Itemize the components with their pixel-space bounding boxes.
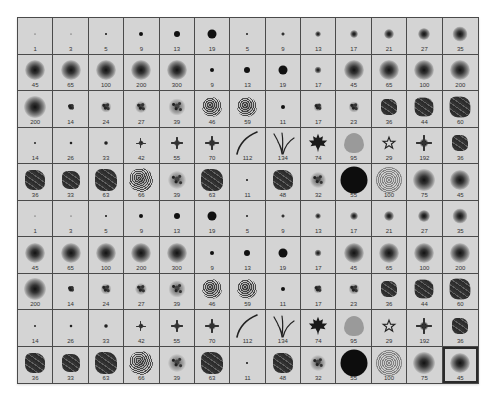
brush-preset-star8[interactable]: 26 <box>53 310 88 347</box>
brush-preset-soft[interactable]: 5 <box>230 18 265 55</box>
brush-preset-soft[interactable]: 21 <box>372 18 407 55</box>
brush-preset-soft[interactable]: 17 <box>336 18 371 55</box>
brush-preset-scatter[interactable]: 23 <box>336 91 371 128</box>
brush-preset-scatter[interactable]: 24 <box>89 91 124 128</box>
brush-preset-textured[interactable]: 36 <box>18 347 53 384</box>
brush-preset-textured[interactable]: 36 <box>372 274 407 311</box>
brush-preset-hard[interactable]: 3 <box>53 201 88 238</box>
brush-preset-soft[interactable]: 17 <box>301 55 336 92</box>
brush-preset-grass-tuft[interactable]: 134 <box>266 128 301 165</box>
brush-preset-textured[interactable]: 63 <box>195 347 230 384</box>
brush-preset-hard[interactable]: 1 <box>18 201 53 238</box>
brush-preset-soft[interactable]: 300 <box>160 237 195 274</box>
brush-preset-star8[interactable]: 33 <box>89 310 124 347</box>
brush-preset-soft[interactable]: 200 <box>124 237 159 274</box>
brush-preset-scatter[interactable]: 32 <box>301 164 336 201</box>
brush-preset-hard[interactable]: 19 <box>266 237 301 274</box>
brush-preset-star-outline[interactable]: 29 <box>372 128 407 165</box>
brush-preset-hard[interactable]: 11 <box>266 91 301 128</box>
brush-preset-textured[interactable]: 63 <box>195 164 230 201</box>
brush-preset-scatter[interactable]: 39 <box>160 91 195 128</box>
brush-preset-soft[interactable]: 200 <box>124 55 159 92</box>
brush-preset-hard[interactable]: 9 <box>124 201 159 238</box>
brush-preset-soft[interactable]: 75 <box>407 347 442 384</box>
brush-preset-soft[interactable]: 45 <box>18 55 53 92</box>
brush-preset-star8[interactable]: 42 <box>124 310 159 347</box>
brush-preset-scatter[interactable]: 32 <box>301 347 336 384</box>
brush-preset-star8[interactable]: 70 <box>195 310 230 347</box>
brush-preset-scatter[interactable]: 23 <box>336 274 371 311</box>
brush-preset-soft[interactable]: 35 <box>443 18 478 55</box>
brush-preset-soft[interactable]: 13 <box>301 201 336 238</box>
brush-preset-hard[interactable]: 19 <box>195 201 230 238</box>
brush-preset-soft[interactable]: 27 <box>407 201 442 238</box>
brush-preset-soft[interactable]: 17 <box>336 201 371 238</box>
brush-preset-soft[interactable]: 200 <box>18 274 53 311</box>
brush-preset-textured[interactable]: 36 <box>18 164 53 201</box>
brush-preset-star8[interactable]: 33 <box>89 128 124 165</box>
brush-preset-speckle[interactable]: 100 <box>372 347 407 384</box>
brush-preset-soft[interactable]: 65 <box>372 237 407 274</box>
brush-preset-soft[interactable]: 300 <box>160 55 195 92</box>
brush-preset-leaf[interactable]: 95 <box>336 128 371 165</box>
brush-preset-soft[interactable]: 45 <box>336 55 371 92</box>
brush-preset-bigdisc[interactable]: 55 <box>336 164 371 201</box>
brush-preset-textured[interactable]: 36 <box>443 310 478 347</box>
brush-preset-star8[interactable]: 192 <box>407 128 442 165</box>
brush-preset-hard[interactable]: 3 <box>53 18 88 55</box>
brush-preset-star8[interactable]: 55 <box>160 128 195 165</box>
brush-preset-star8[interactable]: 26 <box>53 128 88 165</box>
brush-preset-soft[interactable]: 100 <box>89 237 124 274</box>
brush-preset-star-outline[interactable]: 29 <box>372 310 407 347</box>
brush-preset-star8[interactable]: 14 <box>18 310 53 347</box>
brush-preset-star8[interactable]: 55 <box>160 310 195 347</box>
brush-preset-soft[interactable]: 45 <box>443 347 478 384</box>
brush-preset-textured[interactable]: 36 <box>443 128 478 165</box>
brush-preset-hard[interactable]: 1 <box>18 18 53 55</box>
brush-preset-soft[interactable]: 45 <box>18 237 53 274</box>
brush-preset-soft[interactable]: 45 <box>443 164 478 201</box>
brush-preset-scatter[interactable]: 24 <box>89 274 124 311</box>
brush-preset-textured[interactable]: 60 <box>443 274 478 311</box>
brush-preset-soft[interactable]: 65 <box>372 55 407 92</box>
brush-preset-scatter[interactable]: 27 <box>124 91 159 128</box>
brush-preset-soft[interactable]: 100 <box>407 55 442 92</box>
brush-preset-textured[interactable]: 63 <box>89 164 124 201</box>
brush-preset-maple-leaf[interactable]: 74 <box>301 310 336 347</box>
brush-preset-scatter[interactable]: 27 <box>124 274 159 311</box>
brush-preset-star8[interactable]: 192 <box>407 310 442 347</box>
brush-preset-grass-blade[interactable]: 112 <box>230 128 265 165</box>
brush-preset-textured[interactable]: 48 <box>266 164 301 201</box>
brush-preset-hard[interactable]: 11 <box>230 347 265 384</box>
brush-preset-soft[interactable]: 200 <box>443 55 478 92</box>
brush-preset-soft[interactable]: 75 <box>407 164 442 201</box>
brush-preset-textured[interactable]: 33 <box>53 347 88 384</box>
brush-preset-bigdisc[interactable]: 55 <box>336 347 371 384</box>
brush-preset-hard[interactable]: 13 <box>160 18 195 55</box>
brush-preset-soft[interactable]: 27 <box>407 18 442 55</box>
brush-preset-soft[interactable]: 45 <box>336 237 371 274</box>
brush-preset-hard[interactable]: 19 <box>266 55 301 92</box>
brush-preset-textured[interactable]: 36 <box>372 91 407 128</box>
brush-preset-leaf[interactable]: 95 <box>336 310 371 347</box>
brush-preset-noise[interactable]: 59 <box>230 91 265 128</box>
brush-preset-hard[interactable]: 9 <box>195 55 230 92</box>
brush-preset-soft[interactable]: 9 <box>266 18 301 55</box>
brush-preset-noise[interactable]: 66 <box>124 347 159 384</box>
brush-preset-scatter[interactable]: 14 <box>53 91 88 128</box>
brush-preset-hard[interactable]: 11 <box>230 164 265 201</box>
brush-preset-hard[interactable]: 13 <box>160 201 195 238</box>
brush-preset-soft[interactable]: 5 <box>230 201 265 238</box>
brush-preset-hard[interactable]: 13 <box>230 237 265 274</box>
brush-preset-soft[interactable]: 200 <box>18 91 53 128</box>
brush-preset-soft[interactable]: 65 <box>53 55 88 92</box>
brush-preset-textured[interactable]: 48 <box>266 347 301 384</box>
brush-preset-scatter[interactable]: 39 <box>160 347 195 384</box>
brush-preset-hard[interactable]: 9 <box>195 237 230 274</box>
brush-preset-soft[interactable]: 100 <box>407 237 442 274</box>
brush-preset-soft[interactable]: 35 <box>443 201 478 238</box>
brush-preset-soft[interactable]: 65 <box>53 237 88 274</box>
brush-preset-scatter[interactable]: 14 <box>53 274 88 311</box>
brush-preset-hard[interactable]: 11 <box>266 274 301 311</box>
brush-preset-hard[interactable]: 13 <box>230 55 265 92</box>
